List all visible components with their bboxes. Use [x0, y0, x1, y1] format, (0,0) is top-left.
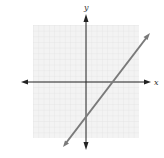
coordinate-plane: y x — [0, 0, 164, 158]
x-axis-right-arrow-icon — [144, 80, 151, 85]
y-axis-top-arrow-icon — [84, 14, 89, 22]
y-axis-label: y — [83, 3, 89, 12]
y-axis-bottom-arrow-icon — [84, 142, 89, 150]
x-axis-label: x — [154, 78, 159, 87]
x-axis-left-arrow-icon — [21, 80, 28, 85]
